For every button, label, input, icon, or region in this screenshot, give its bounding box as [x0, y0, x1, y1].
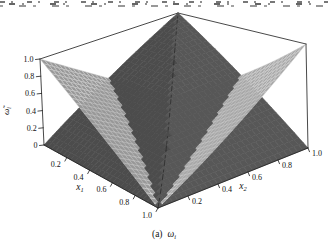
- tick-label: 0.2: [51, 160, 61, 169]
- plot-line: [156, 208, 158, 212]
- tick-label: 0.6: [96, 185, 106, 194]
- tick-label: 0.8: [282, 161, 292, 170]
- tick-label: 0: [34, 141, 38, 150]
- plot-line: [306, 44, 308, 148]
- tick-label: 0.6: [25, 89, 35, 98]
- z-axis-label: ω̃i: [1, 96, 15, 126]
- caption-index: (a): [152, 229, 163, 239]
- plot-line: [248, 172, 250, 176]
- tick-label: 1.0: [24, 55, 34, 64]
- tick-label: 0.8: [119, 198, 129, 207]
- plot-line: [36, 76, 41, 77]
- surface-plot-canvas: 00.20.40.60.81.00.20.40.60.81.00.20.40.6…: [0, 0, 328, 247]
- tick-label: 0.4: [26, 107, 36, 116]
- plot-line: [88, 170, 90, 174]
- x1-axis-label: x1: [64, 182, 96, 195]
- plot-line: [40, 59, 44, 145]
- tick-label: 1.0: [142, 211, 152, 220]
- plot-line: [40, 145, 45, 146]
- plot-line: [111, 183, 113, 187]
- tick-label: 0.2: [192, 197, 202, 206]
- plot-line: [37, 93, 42, 94]
- tick-label: 0.4: [74, 173, 84, 182]
- tick-label: 0.2: [27, 124, 37, 133]
- plot-line: [188, 196, 190, 200]
- plot-line: [308, 148, 310, 152]
- plot-line: [278, 160, 280, 164]
- tick-label: 1.0: [312, 149, 322, 158]
- caption-symbol: ωi: [168, 229, 177, 239]
- plot-line: [218, 184, 220, 188]
- figure-caption: (a)ωi: [0, 228, 328, 243]
- x2-axis-label: x2: [227, 181, 259, 194]
- plot-line: [65, 158, 67, 162]
- plot-line: [39, 128, 44, 129]
- surface-quad: [297, 44, 306, 52]
- plot-line: [164, 160, 165, 165]
- tick-label: 0.8: [24, 72, 34, 81]
- paper-figure-crop: 00.20.40.60.81.00.20.40.60.81.00.20.40.6…: [0, 0, 328, 247]
- plot-line: [36, 59, 41, 60]
- plot-line: [133, 195, 135, 199]
- plot-line: [38, 111, 43, 112]
- plot-line: [166, 146, 167, 151]
